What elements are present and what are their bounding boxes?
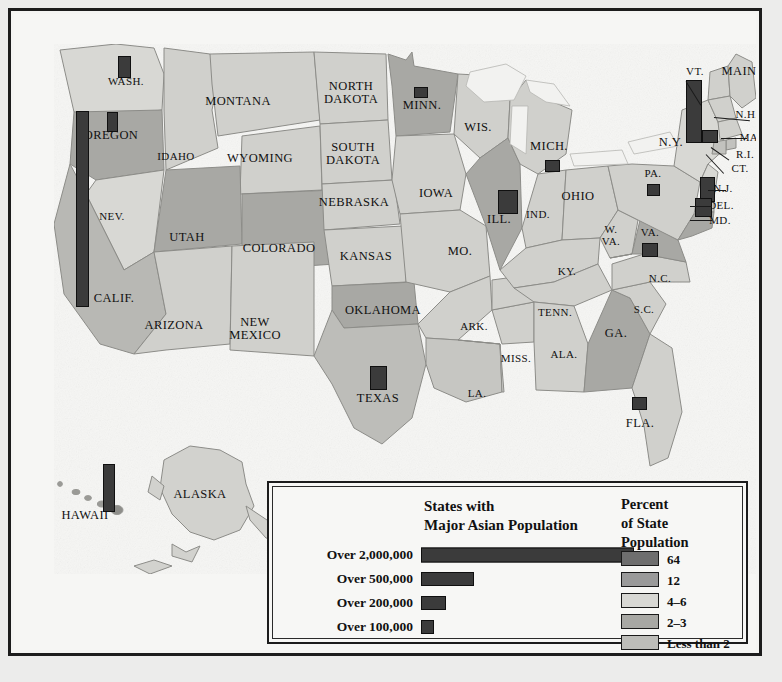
state-shape-northdakota [314, 52, 388, 124]
population-marker [107, 112, 118, 132]
lake-erie [570, 150, 628, 166]
state-shape-alaska [134, 446, 282, 574]
lake-ontario [628, 132, 678, 154]
population-marker [370, 366, 387, 390]
state-shape-indiana [522, 170, 566, 248]
leader-line [721, 138, 747, 139]
state-shape-iowa [392, 134, 466, 214]
legend-bar-row: Over 500,000 [269, 569, 484, 589]
population-marker [103, 464, 115, 512]
population-marker [686, 80, 702, 143]
legend-bar-label: Over 100,000 [269, 619, 413, 635]
state-shape-maine [728, 54, 756, 108]
legend-percent-swatch [621, 572, 659, 587]
legend-bar-row: Over 2,000,000 [269, 545, 644, 565]
legend-percent-label: 4–6 [667, 594, 687, 610]
population-marker [545, 160, 560, 172]
legend-percent-swatch [621, 635, 659, 650]
state-shape-southdakota [320, 120, 392, 184]
title-line: of State [621, 514, 741, 533]
population-marker [76, 111, 89, 307]
state-shape-rhodeisland [726, 138, 736, 150]
state-shape-oklahoma [332, 282, 418, 328]
population-marker [414, 87, 428, 98]
leader-line [708, 190, 726, 191]
title-line: Percent [621, 495, 741, 514]
state-shape-utah [154, 166, 242, 252]
state-shape-alabama [534, 302, 588, 392]
population-marker [498, 190, 518, 214]
map-page: WASH.OREGONIDAHOMONTANAWYOMINGNEV.UTAHCO… [0, 0, 782, 682]
population-marker [647, 184, 660, 196]
state-shape-nebraska [322, 180, 400, 230]
legend-percent-swatch [621, 614, 659, 629]
state-shape-vermont [708, 66, 730, 100]
population-marker [642, 243, 658, 257]
leader-line [690, 220, 712, 221]
legend-bar-label: Over 200,000 [269, 595, 413, 611]
legend-bar-swatch [421, 548, 634, 563]
legend-percent-label: Less than 2 [667, 636, 730, 651]
state-shape-kansas [324, 226, 406, 286]
title-line: Population [621, 533, 741, 552]
legend-percent-label: 2–3 [667, 615, 687, 631]
legend-percent-label: 12 [667, 573, 680, 589]
legend-bar-swatch [421, 596, 446, 610]
legend-percent-swatch [621, 551, 659, 566]
population-marker [632, 397, 647, 410]
state-shape-washington [60, 44, 164, 118]
state-shape-massachusetts [718, 118, 742, 140]
state-shape-montana [210, 52, 320, 136]
legend-percent-swatch [621, 593, 659, 608]
legend-bar-swatch [421, 620, 434, 634]
state-shape-missouri [400, 210, 490, 292]
map-plate: WASH.OREGONIDAHOMONTANAWYOMINGNEV.UTAHCO… [14, 14, 756, 650]
population-marker [118, 56, 131, 78]
legend-bar-row: Over 200,000 [269, 593, 456, 613]
leader-line [690, 206, 712, 207]
population-marker [695, 198, 712, 217]
state-shape-louisiana [426, 338, 502, 402]
legend-bar-label: Over 2,000,000 [269, 547, 413, 563]
legend-bar-row: Over 100,000 [269, 617, 444, 637]
legend-percent-title: Percentof StatePopulation [621, 495, 741, 552]
legend-percent-label: 64 [667, 552, 680, 568]
state-shape-wyoming [240, 126, 322, 194]
legend-bar-label: Over 500,000 [269, 571, 413, 587]
legend-bar-swatch [421, 572, 474, 586]
state-shape-newmexico [230, 242, 314, 356]
map-legend: States withMajor Asian Population Over 2… [267, 481, 748, 644]
map-frame: WASH.OREGONIDAHOMONTANAWYOMINGNEV.UTAHCO… [8, 8, 762, 656]
population-marker [702, 130, 718, 143]
